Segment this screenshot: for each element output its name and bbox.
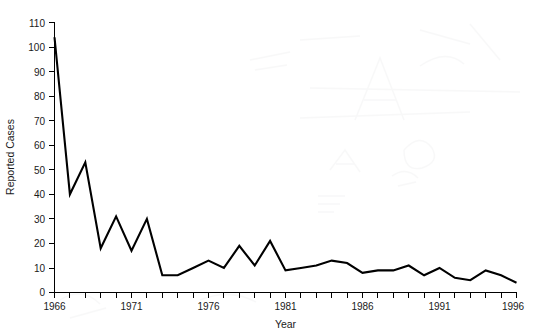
x-tick-label: 1976 [197, 301, 220, 312]
y-tick-label: 100 [28, 42, 45, 53]
x-axis-title: Year [275, 318, 297, 330]
y-tick-label: 50 [34, 165, 46, 176]
y-tick-label: 110 [29, 18, 45, 29]
chart-figure: 0 10 20 30 40 50 60 70 80 90 100 110 Rep… [0, 0, 534, 335]
x-tick-label: 1986 [351, 301, 374, 312]
y-axis-title: Reported Cases [4, 119, 16, 195]
y-axis-tick-labels: 0 10 20 30 40 50 60 70 80 90 100 110 [28, 18, 45, 299]
y-tick-label: 70 [34, 116, 46, 127]
x-tick-label: 1991 [428, 301, 451, 312]
x-tick-label: 1981 [274, 301, 297, 312]
x-tick-label: 1996 [502, 301, 525, 312]
data-series-line [55, 37, 517, 282]
y-tick-label: 40 [34, 189, 46, 200]
y-tick-label: 0 [39, 287, 45, 298]
x-axis-tick-labels: 1966 1971 1976 1981 1986 1991 1996 [43, 301, 524, 312]
y-axis: 0 10 20 30 40 50 60 70 80 90 100 110 Rep… [4, 18, 55, 299]
y-tick-label: 60 [34, 140, 46, 151]
line-chart-plot: 0 10 20 30 40 50 60 70 80 90 100 110 Rep… [0, 0, 534, 335]
y-tick-label: 80 [34, 91, 46, 102]
y-tick-label: 10 [34, 263, 46, 274]
y-axis-ticks [49, 23, 55, 293]
x-tick-label: 1971 [120, 301, 143, 312]
x-axis: 1966 1971 1976 1981 1986 1991 1996 Year [43, 293, 524, 331]
y-tick-label: 20 [34, 238, 46, 249]
x-axis-ticks [55, 293, 517, 299]
x-tick-label: 1966 [43, 301, 66, 312]
y-tick-label: 30 [34, 214, 46, 225]
y-tick-label: 90 [34, 67, 46, 78]
